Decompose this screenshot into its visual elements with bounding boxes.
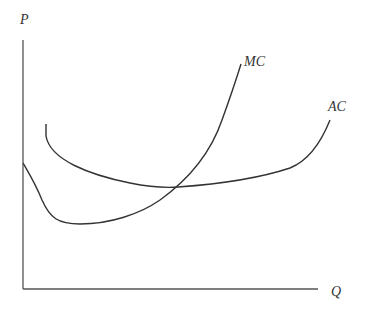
diagram-svg <box>0 0 365 309</box>
mc-label: MC <box>244 55 265 69</box>
ac-label: AC <box>328 100 346 114</box>
q-axis-label: Q <box>331 285 341 299</box>
p-axis-label: P <box>20 13 29 27</box>
cost-curves-diagram: P MC AC Q <box>0 0 365 309</box>
mc-curve <box>23 64 241 224</box>
ac-curve <box>46 120 330 187</box>
